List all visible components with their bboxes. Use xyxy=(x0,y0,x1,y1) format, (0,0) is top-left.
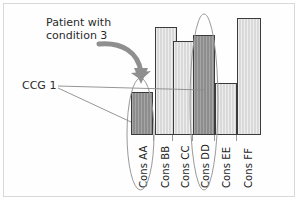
ccg-leader-line-lower xyxy=(58,88,131,122)
callout-patient-condition: Patient with condition 3 xyxy=(46,16,136,42)
highlight-ellipse-cons-aa xyxy=(127,78,154,190)
label-ccg-1: CCG 1 xyxy=(22,79,56,92)
highlight-ellipse-cons-dd xyxy=(190,14,218,190)
ccg-leader-line-upper xyxy=(58,86,204,90)
annotation-overlay xyxy=(0,0,300,202)
curved-arrow-shaft xyxy=(99,44,141,72)
curved-arrow-head-flare xyxy=(131,71,151,80)
chart-figure: Cons AA Cons BB Cons CC Cons DD Cons EE … xyxy=(0,0,300,202)
